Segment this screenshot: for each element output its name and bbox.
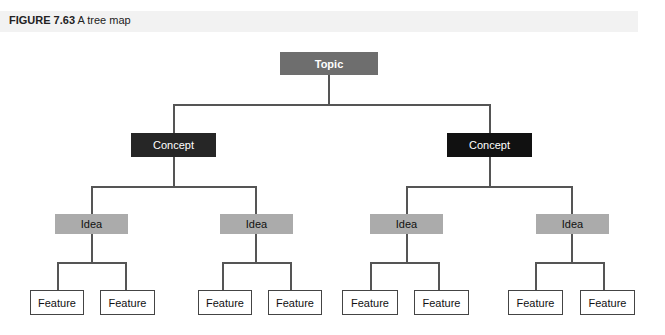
- node-feature: Feature: [580, 290, 635, 315]
- connector: [222, 262, 224, 290]
- connector: [173, 157, 175, 186]
- connector: [91, 186, 257, 188]
- connector: [603, 262, 605, 290]
- node-idea: Idea: [536, 214, 609, 234]
- figure-caption: FIGURE 7.63 A tree map: [9, 14, 131, 26]
- node-feature: Feature: [414, 290, 469, 315]
- connector: [290, 262, 292, 290]
- connector: [57, 262, 59, 290]
- node-idea: Idea: [220, 214, 293, 234]
- connector: [489, 104, 491, 133]
- connector: [571, 186, 573, 214]
- connector: [328, 75, 330, 105]
- connector: [406, 186, 408, 214]
- connector: [406, 233, 408, 262]
- connector: [370, 262, 372, 290]
- connector: [489, 157, 491, 186]
- connector: [535, 262, 537, 290]
- node-idea: Idea: [370, 214, 443, 234]
- node-idea: Idea: [55, 214, 128, 234]
- connector: [438, 262, 440, 290]
- node-concept: Concept: [447, 133, 532, 157]
- node-feature: Feature: [30, 290, 84, 315]
- connector: [91, 233, 93, 262]
- node-feature: Feature: [268, 290, 322, 315]
- node-feature: Feature: [198, 290, 252, 315]
- connector: [91, 186, 93, 214]
- connector: [173, 104, 491, 106]
- node-concept: Concept: [131, 133, 216, 157]
- connector: [535, 262, 604, 264]
- node-feature: Feature: [508, 290, 563, 315]
- node-feature: Feature: [100, 290, 155, 315]
- connector: [255, 233, 257, 262]
- node-feature: Feature: [342, 290, 398, 315]
- connector: [173, 104, 175, 133]
- connector: [571, 233, 573, 262]
- connector: [370, 262, 439, 264]
- figure-label: FIGURE 7.63: [9, 14, 75, 26]
- connector: [222, 262, 291, 264]
- connector: [57, 262, 126, 264]
- node-topic: Topic: [280, 52, 378, 75]
- figure-title: A tree map: [77, 14, 130, 26]
- connector: [406, 186, 573, 188]
- connector: [255, 186, 257, 214]
- figure-caption-bar: FIGURE 7.63 A tree map: [0, 11, 638, 32]
- connector: [125, 262, 127, 290]
